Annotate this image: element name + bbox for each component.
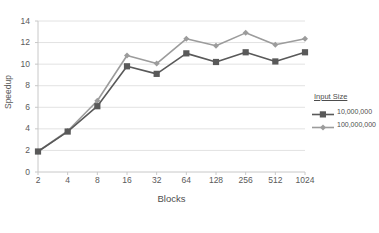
data-point-marker	[213, 43, 219, 49]
data-point-marker	[272, 58, 278, 64]
data-point-marker	[302, 36, 308, 42]
x-tick-label: 128	[209, 176, 223, 185]
x-tick-label: 1024	[296, 176, 315, 185]
x-tick-label: 2	[36, 176, 41, 185]
data-point-marker	[243, 49, 249, 55]
legend-marker-icon	[312, 119, 334, 130]
x-tick-label: 8	[95, 176, 100, 185]
y-tick-label: 10	[21, 60, 30, 69]
data-point-marker	[183, 50, 189, 56]
x-tick-label: 256	[239, 176, 253, 185]
x-axis-title: Blocks	[38, 193, 305, 204]
series-layer	[35, 30, 308, 155]
data-point-marker	[124, 63, 130, 69]
x-tick-label: 64	[182, 176, 191, 185]
legend-item-label: 100,000,000	[337, 121, 376, 129]
speedup-line-chart: 02468101214 Speedup 24816326412825651210…	[0, 0, 379, 233]
y-tick-label: 4	[25, 124, 30, 133]
data-point-marker	[213, 59, 219, 65]
plot-area	[38, 21, 305, 172]
x-tick-label: 32	[152, 176, 161, 185]
legend-item[interactable]: 100,000,000	[312, 118, 378, 131]
y-tick-label: 14	[21, 17, 30, 26]
series-line	[38, 52, 305, 151]
y-tick-label: 0	[25, 168, 30, 177]
x-axis-tick-labels: 2481632641282565121024	[38, 176, 305, 190]
legend-title: Input Size	[312, 92, 378, 101]
x-tick-label: 512	[268, 176, 282, 185]
data-point-marker	[94, 103, 100, 109]
data-point-marker	[243, 30, 249, 36]
y-tick-label: 8	[25, 81, 30, 90]
legend-marker-icon	[312, 106, 334, 117]
data-point-marker	[65, 128, 71, 134]
data-point-marker	[302, 49, 308, 55]
data-point-marker	[35, 148, 41, 154]
data-point-marker	[154, 71, 160, 77]
legend-item[interactable]: 10,000,000	[312, 105, 378, 118]
legend-rows: 10,000,000100,000,000	[312, 105, 378, 131]
x-tick-label: 16	[122, 176, 131, 185]
series-square	[35, 49, 308, 154]
legend-item-label: 10,000,000	[337, 108, 372, 116]
series-diamond	[35, 30, 308, 155]
y-axis-title: Speedup	[3, 61, 13, 123]
y-tick-label: 12	[21, 38, 30, 47]
plot-svg	[38, 21, 305, 172]
y-tick-label: 6	[25, 103, 30, 112]
x-tick-label: 4	[65, 176, 70, 185]
series-line	[38, 33, 305, 152]
axis-lines	[35, 21, 305, 175]
y-tick-label: 2	[25, 146, 30, 155]
legend: Input Size 10,000,000100,000,000	[312, 92, 378, 131]
